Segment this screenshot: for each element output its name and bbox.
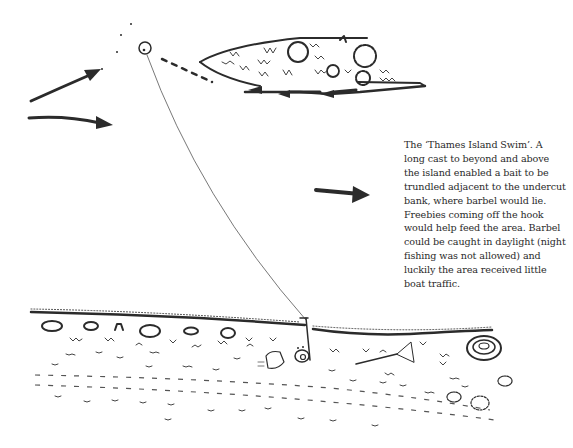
caption-line: luckily the area received little — [404, 263, 572, 277]
caption-line: trundled adjacent to the undercut — [404, 180, 572, 194]
near-bank — [31, 309, 492, 338]
riverbed-stones — [447, 376, 512, 410]
bait-trajectory — [162, 59, 212, 82]
arrow-mid-right-icon — [316, 186, 370, 203]
caption-line: would help feed the area. Barbel — [404, 221, 572, 235]
caption-line: could be caught in daylight (night — [404, 235, 572, 249]
cast-target-circle-icon — [139, 42, 151, 54]
island-sketch — [200, 36, 425, 98]
flow-dashes — [35, 375, 495, 420]
caption-line: fishing was not allowed) and — [404, 249, 572, 263]
arrow-lower-left-icon — [29, 116, 113, 129]
figure-caption: The ‘Thames Island Swim’. A long cast to… — [404, 138, 572, 291]
caption-line: boat traffic. — [404, 277, 572, 291]
caption-line: the island enabled a bait to be — [404, 166, 572, 180]
caption-line: Freebies coming off the hook — [404, 208, 572, 222]
weed-tufts — [52, 338, 468, 426]
caption-line: The ‘Thames Island Swim’. A — [404, 138, 572, 152]
reel-icon — [295, 346, 309, 362]
tackle-bag — [258, 352, 284, 369]
caption-line: long cast to beyond and above — [404, 152, 572, 166]
illustration-canvas: The ‘Thames Island Swim’. A long cast to… — [0, 0, 573, 448]
landing-net — [356, 342, 414, 364]
caption-line: bank, where barbel would lie. — [404, 194, 572, 208]
arrow-upper-left-icon — [31, 69, 101, 101]
bankside-bush — [467, 336, 501, 360]
cast-spray-dots — [101, 23, 132, 70]
